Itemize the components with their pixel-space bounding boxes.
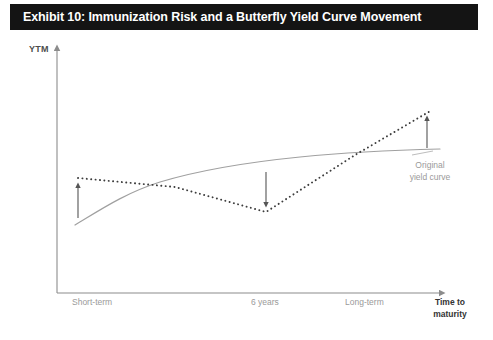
y-axis-label: YTM [29,44,49,54]
x-axis-label: Time to maturity [419,297,481,320]
x-tick-label-long-term: Long-term [345,297,384,307]
x-axis-label-line2: maturity [433,309,467,319]
original-curve-leader-line [412,151,433,155]
exhibit-title-banner: Exhibit 10: Immunization Risk and a Butt… [10,4,478,30]
exhibit-figure: Exhibit 10: Immunization Risk and a Butt… [0,0,493,340]
callout-line2: yield curve [410,172,451,182]
x-tick-label-six-years: 6 years [251,297,279,307]
original-yield-curve-line [75,149,440,225]
x-tick-label-short-term: Short-term [72,297,112,307]
shifted-yield-curve-line [78,110,432,212]
original-yield-curve-callout: Original yield curve [398,160,462,183]
callout-line1: Original [415,160,444,170]
chart-canvas [0,30,493,340]
x-axis-label-line1: Time to [435,297,465,307]
exhibit-title-text: Exhibit 10: Immunization Risk and a Butt… [10,10,421,24]
